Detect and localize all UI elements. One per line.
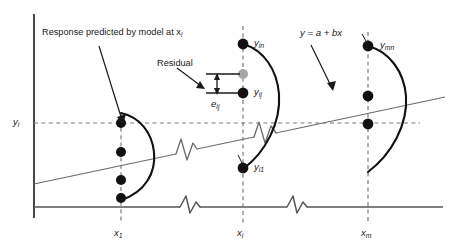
data-point-yin — [238, 39, 249, 50]
point-label-yi1-subscript: i1 — [259, 166, 264, 173]
regression-diagram: Response predicted by model at xi Residu… — [0, 0, 457, 252]
data-point — [116, 147, 126, 157]
x-tick-label-xi: xi — [237, 228, 243, 240]
residual-leader-line — [177, 68, 201, 86]
residual-symbol-label: eij — [211, 99, 219, 111]
x-axis-break-2-icon — [287, 196, 307, 213]
x-tick-xi-subscript: i — [242, 232, 244, 239]
data-point — [116, 193, 126, 203]
distribution-curve-xi — [243, 44, 279, 169]
data-point-yi1 — [238, 163, 249, 174]
regression-break-1-icon — [176, 139, 197, 160]
ymn-leader-line — [362, 34, 366, 41]
data-point — [363, 91, 374, 102]
model-equation-label: y = a + bx — [300, 28, 342, 38]
regression-line-segment-2 — [197, 137, 254, 149]
point-label-ymn: ymn — [380, 40, 394, 52]
predicted-response-annotation: Response predicted by model at xi — [42, 28, 182, 38]
yi1-leader-line — [238, 155, 242, 163]
y-axis-label: yi — [13, 117, 19, 129]
y-axis-label-subscript: i — [18, 121, 20, 128]
predicted-annotation-text: Response predicted by model at x — [42, 27, 181, 37]
x-tick-label-x1: x1 — [114, 228, 123, 240]
data-point — [363, 119, 374, 130]
point-label-yij: yij — [254, 87, 262, 99]
x-tick-x1-subscript: 1 — [119, 232, 123, 239]
residual-leader-arrowhead-icon — [196, 81, 205, 89]
point-label-yin: yin — [254, 38, 264, 50]
x-tick-xm-subscript: m — [366, 232, 372, 239]
equation-leader-arrowhead-icon — [327, 81, 336, 91]
distribution-curve-x1 — [121, 113, 154, 200]
point-label-yij-subscript: ij — [259, 91, 262, 98]
x-axis-break-1-icon — [180, 196, 200, 213]
data-point — [116, 175, 126, 185]
residual-arrow-head-down-icon — [214, 88, 220, 95]
point-label-ymn-subscript: mn — [385, 44, 395, 51]
x-tick-label-xm: xm — [361, 228, 372, 240]
point-label-yin-subscript: in — [259, 42, 264, 49]
data-point-ymn — [363, 41, 374, 52]
residual-symbol-subscript: ij — [216, 103, 219, 110]
residual-annotation: Residual — [157, 59, 193, 68]
predicted-leader-line — [99, 46, 122, 120]
predicted-annotation-subscript: i — [181, 31, 182, 38]
point-label-yi1: yi1 — [254, 162, 264, 174]
equation-leader-line — [311, 45, 331, 86]
regression-line-segment-3 — [276, 97, 445, 133]
